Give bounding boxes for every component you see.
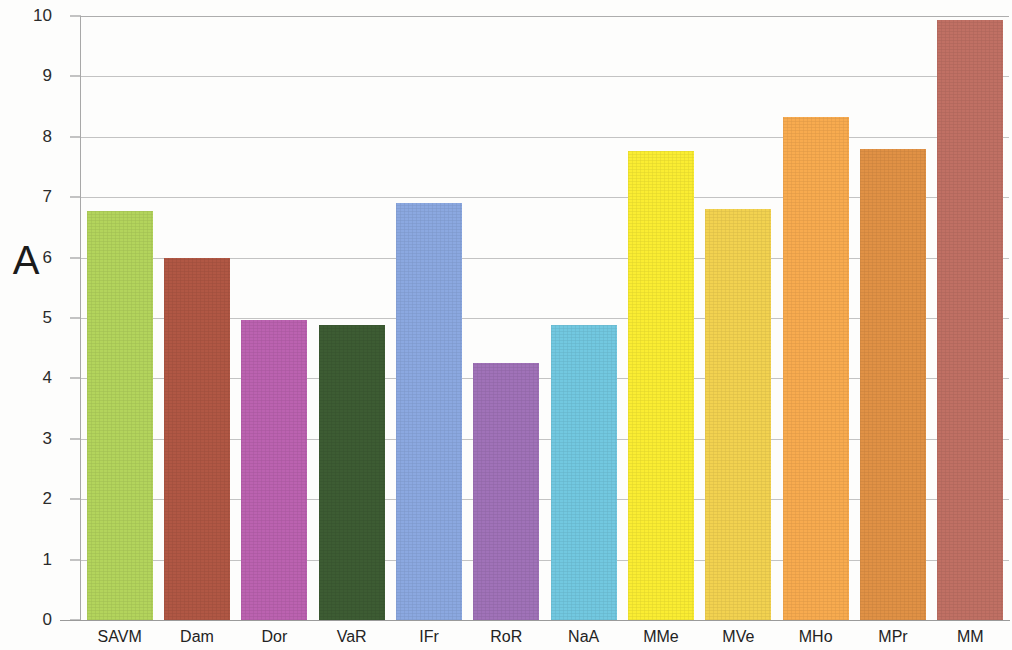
gridline (81, 76, 1009, 77)
x-axis-tick-label: MMe (622, 628, 699, 646)
y-axis-tick-label: 2 (22, 489, 52, 509)
x-axis-tick-label: MHo (777, 628, 854, 646)
y-axis-tick-label: 3 (22, 429, 52, 449)
bar-ror (473, 363, 539, 620)
bar-texture (164, 258, 230, 620)
y-axis-tick-label: 9 (22, 66, 52, 86)
x-axis-line (60, 620, 1010, 621)
x-axis-tick-label: MM (932, 628, 1009, 646)
gridline (81, 137, 1009, 138)
y-axis-tick-label: 7 (22, 187, 52, 207)
bar-dam (164, 258, 230, 620)
bar-texture (319, 325, 385, 620)
x-axis-tick-labels: SAVMDamDorVaRIFrRoRNaAMMeMVeMHoMPrMM (81, 624, 1009, 650)
x-axis-tick-label: MVe (700, 628, 777, 646)
y-axis: 012345678910 (0, 0, 80, 650)
bar-mme (628, 151, 694, 620)
y-axis-tick-label: 4 (22, 368, 52, 388)
bar-texture (551, 325, 617, 620)
bar-texture (87, 211, 153, 620)
bar-texture (241, 320, 307, 620)
bar-savm (87, 211, 153, 620)
bar-mho (783, 117, 849, 620)
bar-texture (860, 149, 926, 620)
y-axis-tick-label: 5 (22, 308, 52, 328)
bar-mm (937, 20, 1003, 620)
y-axis-tick-label: 1 (22, 550, 52, 570)
x-axis-tick-label: NaA (545, 628, 622, 646)
bar-mpr (860, 149, 926, 620)
x-axis-tick-label: Dam (158, 628, 235, 646)
y-axis-tick-label: 10 (22, 6, 52, 26)
y-axis-tick-label: 8 (22, 127, 52, 147)
bar-texture (705, 209, 771, 620)
bar-texture (783, 117, 849, 620)
x-axis-tick-label: SAVM (81, 628, 158, 646)
bar-ifr (396, 203, 462, 620)
x-axis-tick-label: VaR (313, 628, 390, 646)
bar-texture (396, 203, 462, 620)
bar-var (319, 325, 385, 620)
bar-texture (628, 151, 694, 620)
x-axis-tick-label: Dor (236, 628, 313, 646)
bar-dor (241, 320, 307, 620)
gridline (81, 16, 1009, 17)
bar-texture (937, 20, 1003, 620)
y-axis-tick-label: 6 (22, 248, 52, 268)
x-axis-tick-label: RoR (468, 628, 545, 646)
bar-texture (473, 363, 539, 620)
bar-mve (705, 209, 771, 620)
bar-chart-figure: A 012345678910 SAVMDamDorVaRIFrRoRNaAMMe… (0, 0, 1012, 650)
plot-area (81, 16, 1009, 620)
x-axis-tick-label: IFr (390, 628, 467, 646)
y-axis-tick-label: 0 (22, 610, 52, 630)
bar-naa (551, 325, 617, 620)
x-axis-tick-label: MPr (854, 628, 931, 646)
